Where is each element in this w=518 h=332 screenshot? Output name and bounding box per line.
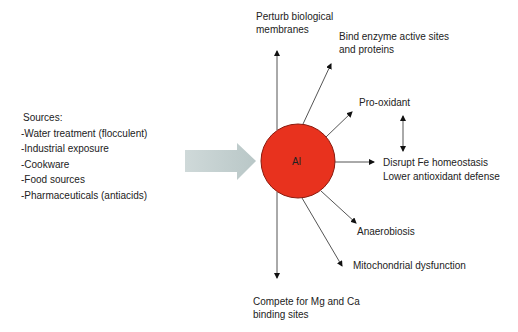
effect-mito: Mitochondrial dysfunction — [353, 259, 466, 272]
effect-anaerobiosis: Anaerobiosis — [357, 225, 415, 238]
effect-prooxidant: Pro-oxidant — [359, 96, 410, 109]
source-item: -Food sources — [21, 173, 85, 186]
effect-perturb-line1: Perturb biological — [256, 10, 333, 23]
aluminum-label: Al — [292, 155, 301, 168]
arrow-bind — [303, 64, 331, 124]
source-item: -Industrial exposure — [21, 142, 109, 155]
effect-bind-line1: Bind enzyme active sites — [339, 30, 449, 43]
source-item: -Cookware — [21, 158, 69, 171]
effect-compete-line1: Compete for Mg and Ca — [253, 295, 360, 308]
arrow-mito — [302, 198, 342, 266]
effect-compete-line2: binding sites — [253, 308, 309, 321]
arrow-prooxidant — [326, 112, 352, 137]
input-arrow — [185, 143, 256, 180]
source-item: -Water treatment (flocculent) — [21, 127, 147, 140]
effect-disrupt-line1: Disrupt Fe homeostasis — [383, 156, 488, 169]
sources-title: Sources: — [23, 111, 62, 124]
arrow-anaerobiosis — [321, 191, 356, 223]
effect-disrupt-line2: Lower antioxidant defense — [383, 170, 500, 183]
effect-bind-line2: and proteins — [339, 43, 394, 56]
source-item: -Pharmaceuticals (antiacids) — [21, 189, 147, 202]
effect-perturb-line2: membranes — [256, 23, 309, 36]
